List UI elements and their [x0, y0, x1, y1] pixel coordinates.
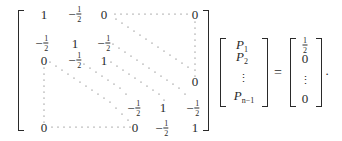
matrix-entry-r2c1: − 12: [35, 35, 48, 52]
matrix-entry-r1cn: 0: [192, 8, 199, 21]
matrix-entry-rn-c: 1: [192, 121, 199, 134]
denominator: 2: [195, 110, 199, 117]
matrix-entry-rn-b: − 12: [155, 120, 168, 137]
minus-sign: −: [127, 100, 134, 116]
rhs-right-bracket: [316, 38, 322, 107]
denominator: 2: [77, 16, 81, 23]
rhs-entry-2: 0: [302, 52, 309, 65]
symbol: P: [236, 49, 244, 64]
matrix-entry-rn-a: 0: [132, 121, 139, 134]
vector-p-entry-2: P2: [236, 50, 248, 68]
numerator: 1: [195, 100, 199, 107]
numerator: 1: [164, 120, 168, 127]
denominator: 2: [77, 62, 81, 69]
matrix-entry-rnc1: 0: [41, 121, 48, 134]
matrix-entry-r1c3: 0: [101, 8, 108, 21]
numerator: 1: [77, 6, 81, 13]
rhs-entry-last: 0: [302, 92, 309, 105]
denominator: 2: [106, 45, 110, 52]
vector-p-left-bracket: [220, 38, 226, 107]
top-row-hdots: [114, 13, 187, 14]
denominator: 2: [164, 130, 168, 137]
minus-sign: −: [97, 35, 104, 51]
matrix-entry-r3c1: 0: [41, 54, 48, 67]
matrix-entry-rn1-c: − 12: [186, 100, 199, 117]
numerator: 1: [77, 52, 81, 59]
rhs-left-bracket: [290, 38, 296, 107]
matrix-entry-r2c3: − 12: [97, 35, 110, 52]
matrix-entry-r2c2: 1: [72, 37, 79, 50]
denominator: 2: [44, 45, 48, 52]
minus-sign: −: [68, 6, 75, 22]
equals-sign: =: [274, 66, 282, 79]
matrix-entry-rn1-b: 1: [160, 101, 167, 114]
numerator: 1: [136, 100, 140, 107]
vector-p-vdots: ⋮: [238, 72, 249, 85]
matrix-entry-r3c2: − 12: [68, 52, 81, 69]
denominator: 2: [136, 110, 140, 117]
matrix-entry-r3c3: 1: [101, 54, 108, 67]
numerator: 1: [44, 35, 48, 42]
subscript: 2: [244, 57, 248, 66]
vector-p-entry-last: Pn−1: [234, 89, 254, 107]
minus-sign: −: [35, 35, 42, 51]
matrix-entry-rn1-a: − 12: [127, 100, 140, 117]
equation-period: .: [325, 64, 328, 77]
numerator: 1: [106, 35, 110, 42]
numerator: 1: [303, 37, 307, 44]
vector-p-right-bracket: [262, 38, 268, 107]
symbol: P: [234, 88, 242, 103]
minus-sign: −: [186, 100, 193, 116]
rhs-vdots: ⋮: [300, 74, 311, 87]
matrix-entry-rn2cn: 0: [192, 75, 199, 88]
minus-sign: −: [155, 120, 162, 136]
matrix-entry-r1c2: − 12: [68, 6, 81, 23]
minus-sign: −: [68, 52, 75, 68]
subscript: n−1: [242, 96, 255, 105]
matrix-entry-r1c1: 1: [41, 8, 48, 21]
